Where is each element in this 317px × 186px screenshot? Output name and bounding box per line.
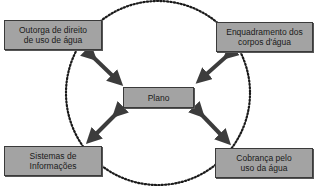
- node-label-line1: Enquadramento dos: [226, 27, 303, 37]
- arrow-bottom-left: [91, 113, 117, 139]
- arrow-top-left: [92, 56, 118, 81]
- center-label: Plano: [148, 93, 170, 103]
- node-plano: Plano: [123, 87, 194, 108]
- arrow-top-right: [201, 55, 228, 79]
- node-cobranca: Cobrança pelo uso da água: [215, 148, 313, 178]
- node-label-line2: uso da água: [236, 163, 291, 173]
- node-outorga: Outorga de direito de uso de água: [4, 20, 102, 50]
- node-label-line2: Informações: [30, 161, 77, 171]
- node-label-line2: corpos d'água: [226, 37, 303, 47]
- node-sistemas: Sistemas de Informações: [4, 146, 102, 176]
- node-label-line1: Cobrança pelo: [236, 153, 291, 163]
- node-enquadramento: Enquadramento dos corpos d'água: [216, 22, 313, 52]
- node-label-line2: de uso de água: [19, 35, 87, 45]
- node-label-line1: Outorga de direito: [19, 25, 87, 35]
- arrow-bottom-right: [200, 113, 226, 140]
- node-label-line1: Sistemas de: [30, 151, 77, 161]
